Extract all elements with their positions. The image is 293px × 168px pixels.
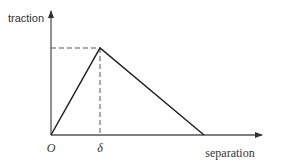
origin-label: O	[47, 141, 56, 155]
traction-separation-curve	[51, 48, 204, 135]
y-axis-label: traction	[8, 12, 44, 24]
peak-separation-label: δ	[97, 141, 103, 155]
traction-separation-diagram: traction separation O δ	[0, 0, 293, 168]
x-axis-label: separation	[205, 146, 254, 160]
